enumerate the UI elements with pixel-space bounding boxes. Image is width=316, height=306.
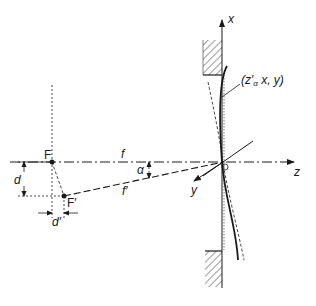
- x-axis-label: x: [228, 13, 234, 25]
- upper-support-block: [203, 40, 222, 75]
- point-coordinate-label: (z′α x, y): [241, 74, 284, 88]
- shifted-focal-length-label: f′: [122, 185, 128, 197]
- focus-label: F: [44, 149, 51, 161]
- shifted-focus-label: F′: [67, 197, 77, 209]
- focus-shift-line: [52, 162, 64, 196]
- tangent-line: [203, 141, 253, 176]
- z-axis-label: z: [294, 166, 300, 178]
- d-prime-label: d′: [52, 216, 61, 228]
- shifted-focus-point: [62, 194, 67, 199]
- d-label: d: [14, 174, 21, 186]
- focal-length-label: f: [121, 148, 124, 160]
- y-axis-label: y: [191, 184, 197, 196]
- point-leader-line: [222, 84, 240, 97]
- lower-support-block: [205, 251, 222, 287]
- alpha-label: α: [137, 164, 144, 176]
- reference-curve: [208, 82, 244, 260]
